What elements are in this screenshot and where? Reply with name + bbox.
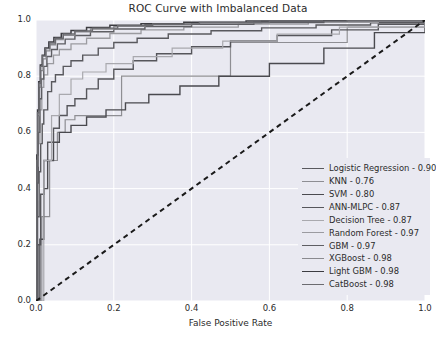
legend-item-label: Random Forest - 0.97 [329, 229, 419, 237]
roc-curve-figure: ROC Curve with Imbalanced Data 0.00.20.4… [0, 0, 436, 339]
legend-line-swatch [302, 284, 324, 285]
x-tick-label: 0.2 [107, 303, 121, 313]
legend-item-label: Logistic Regression - 0.90 [329, 164, 436, 172]
legend-line-swatch [302, 194, 324, 195]
legend-item-logistic-regression[interactable]: Logistic Regression - 0.90 [300, 162, 427, 175]
chart-legend: Logistic Regression - 0.90KNN - 0.76SVM … [298, 158, 430, 295]
x-tick-label: 0.4 [185, 303, 199, 313]
legend-line-swatch [302, 207, 324, 208]
chart-title: ROC Curve with Imbalanced Data [0, 2, 436, 14]
legend-item-light-gbm[interactable]: Light GBM - 0.98 [300, 265, 427, 278]
x-tick-label: 1.0 [418, 303, 432, 313]
legend-item-decision-tree[interactable]: Decision Tree - 0.87 [300, 214, 427, 227]
legend-item-random-forest[interactable]: Random Forest - 0.97 [300, 226, 427, 239]
legend-item-label: Light GBM - 0.98 [329, 267, 399, 275]
legend-item-ann-mlpc[interactable]: ANN-MLPC - 0.87 [300, 201, 427, 214]
legend-item-svm[interactable]: SVM - 0.80 [300, 188, 427, 201]
legend-item-catboost[interactable]: CatBoost - 0.98 [300, 278, 427, 291]
x-tick-label: 0.6 [263, 303, 277, 313]
legend-line-swatch [302, 232, 324, 233]
legend-item-label: XGBoost - 0.98 [329, 254, 392, 262]
legend-line-swatch [302, 258, 324, 259]
x-axis-label: False Positive Rate [36, 318, 425, 328]
legend-item-label: Decision Tree - 0.87 [329, 216, 412, 224]
legend-line-swatch [302, 245, 324, 246]
legend-item-label: KNN - 0.76 [329, 177, 374, 185]
legend-line-swatch [302, 181, 324, 182]
legend-item-label: GBM - 0.97 [329, 242, 375, 250]
legend-item-xgboost[interactable]: XGBoost - 0.98 [300, 252, 427, 265]
legend-item-gbm[interactable]: GBM - 0.97 [300, 239, 427, 252]
legend-item-label: SVM - 0.80 [329, 190, 374, 198]
legend-item-label: ANN-MLPC - 0.87 [329, 203, 400, 211]
legend-line-swatch [302, 271, 324, 272]
legend-item-label: CatBoost - 0.98 [329, 280, 394, 288]
legend-item-knn[interactable]: KNN - 0.76 [300, 175, 427, 188]
x-tick-label: 0.0 [29, 303, 43, 313]
x-tick-label: 0.8 [340, 303, 354, 313]
legend-line-swatch [302, 220, 324, 221]
legend-line-swatch [302, 168, 324, 169]
